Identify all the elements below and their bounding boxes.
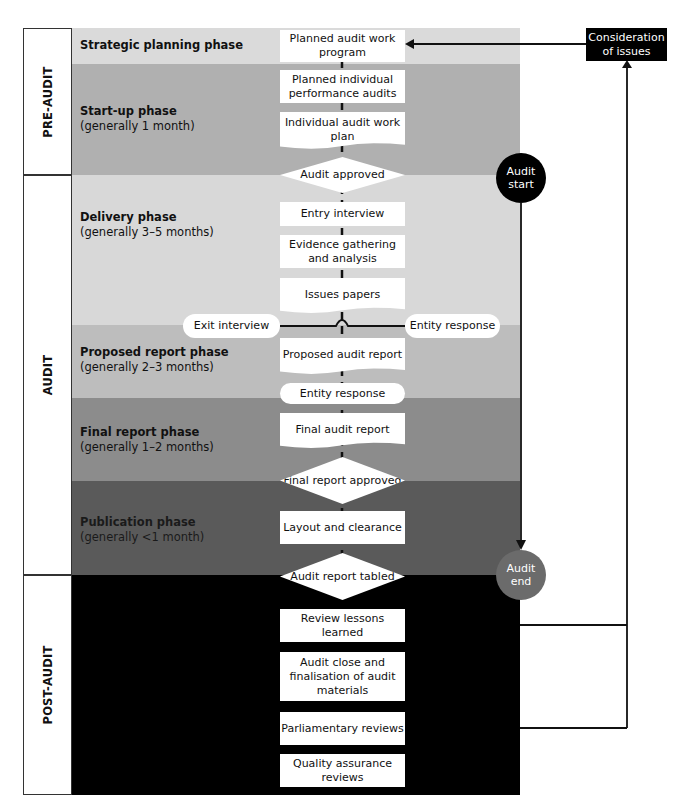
node-label: Issues papers: [305, 288, 380, 302]
stage-label-post-audit: POST-AUDIT: [41, 646, 55, 725]
node-exit-interview[interactable]: Exit interview: [183, 314, 280, 338]
audit-end-marker[interactable]: Audit end: [496, 550, 546, 600]
marker-label: Audit start: [504, 165, 538, 191]
stage-post-audit: POST-AUDIT: [23, 575, 72, 795]
phase-duration: (generally 1 month): [80, 119, 195, 134]
phase-title: Start-up phase: [80, 104, 195, 119]
node-label: Entry interview: [301, 207, 385, 221]
node-parliamentary-reviews[interactable]: Parliamentary reviews: [280, 712, 405, 745]
phase-title: Delivery phase: [80, 210, 214, 225]
node-label: Final report approved: [284, 474, 402, 488]
phase-duration: (generally 2–3 months): [80, 360, 229, 375]
node-label: Entity response: [410, 319, 496, 333]
node-label: Audit approved: [300, 168, 384, 182]
node-label: Audit close and finalisation of audit ma…: [280, 656, 405, 698]
node-evidence-gathering[interactable]: Evidence gathering and analysis: [280, 235, 405, 268]
node-label: Evidence gathering and analysis: [280, 238, 405, 266]
node-label: Layout and clearance: [283, 521, 402, 535]
audit-start-marker[interactable]: Audit start: [496, 153, 546, 203]
box-label: Consideration of issues: [586, 31, 667, 59]
node-label: Proposed audit report: [283, 348, 402, 362]
node-label: Planned audit work program: [280, 32, 405, 60]
phase-title: Publication phase: [80, 515, 204, 530]
node-label: Individual audit work plan: [280, 116, 405, 144]
node-entity-response[interactable]: Entity response: [280, 383, 405, 404]
stage-label-audit: AUDIT: [41, 355, 55, 396]
node-review-lessons-learned[interactable]: Review lessons learned: [280, 609, 405, 642]
node-entry-interview[interactable]: Entry interview: [280, 202, 405, 226]
phase-title: Strategic planning phase: [80, 38, 243, 53]
node-label: Exit interview: [194, 319, 269, 333]
node-label: Audit report tabled: [290, 570, 394, 584]
phase-title: Proposed report phase: [80, 345, 229, 360]
node-audit-close[interactable]: Audit close and finalisation of audit ma…: [280, 652, 405, 701]
node-label: Quality assurance reviews: [280, 757, 405, 785]
phase-duration: (generally 1–2 months): [80, 440, 214, 455]
node-label: Entity response: [300, 387, 386, 401]
marker-label: Audit end: [504, 562, 538, 588]
node-layout-clearance[interactable]: Layout and clearance: [280, 511, 405, 544]
node-planned-audit-work-program[interactable]: Planned audit work program: [280, 30, 405, 62]
stage-pre-audit: PRE-AUDIT: [23, 28, 72, 175]
stage-audit: AUDIT: [23, 175, 72, 575]
phase-duration: (generally 3–5 months): [80, 225, 214, 240]
node-label: Review lessons learned: [280, 612, 405, 640]
node-label: Final audit report: [295, 423, 389, 437]
node-planned-individual-audits[interactable]: Planned individual performance audits: [280, 70, 405, 103]
consideration-of-issues-box[interactable]: Consideration of issues: [586, 28, 667, 61]
node-label: Parliamentary reviews: [281, 722, 403, 736]
node-quality-assurance-reviews[interactable]: Quality assurance reviews: [280, 754, 405, 787]
stage-label-pre-audit: PRE-AUDIT: [41, 66, 55, 137]
node-entity-response-side[interactable]: Entity response: [405, 314, 500, 338]
node-label: Planned individual performance audits: [280, 73, 405, 101]
phase-duration: (generally <1 month): [80, 530, 204, 545]
phase-title: Final report phase: [80, 425, 214, 440]
